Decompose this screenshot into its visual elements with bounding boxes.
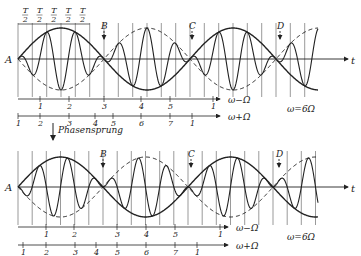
scale-tick-label: 2 [71, 230, 77, 239]
top-scale-plus-label: ω+Ω [228, 112, 251, 122]
node-marker-C: C [188, 149, 195, 159]
svg-text:2: 2 [65, 15, 71, 24]
top-scale-minus-label: ω−Ω [228, 95, 251, 105]
top-ratio-label: ω=6Ω [287, 104, 316, 114]
bottom-scale-ticks: 12345112345671 [21, 224, 223, 256]
node-marker-D: D [276, 21, 284, 31]
scale-tick-label: 4 [138, 102, 144, 111]
scale-tick-label: 2 [43, 248, 49, 256]
scale-tick-label: 3 [115, 230, 120, 239]
svg-text:T: T [66, 6, 72, 15]
bottom-panel: A t BCD ω−Ω ω+Ω 12345112345671 ω=6Ω [4, 149, 356, 256]
svg-text:T: T [51, 6, 57, 15]
half-period-dimension: T2T2T2T2T2 [18, 6, 90, 24]
bottom-ratio-label: ω=6Ω [287, 232, 316, 242]
svg-text:2: 2 [22, 15, 28, 24]
scale-tick-label: 6 [144, 248, 149, 256]
scale-tick-label: 3 [73, 248, 78, 256]
scale-tick-label: 4 [143, 230, 149, 239]
scale-tick-label: 7 [168, 119, 174, 128]
svg-text:2: 2 [79, 15, 85, 24]
top-panel: T2T2T2T2T2 A t BCD ω−Ω ω+Ω 1234511234567… [4, 6, 356, 128]
node-marker-B: B [100, 21, 108, 31]
scale-tick-label: 1 [211, 102, 216, 111]
beat-waveform-diagram: T2T2T2T2T2 A t BCD ω−Ω ω+Ω 1234511234567… [0, 0, 361, 256]
scale-tick-label: 1 [218, 230, 223, 239]
svg-text:T: T [23, 6, 29, 15]
bottom-origin-label: A [4, 182, 12, 193]
top-scale-ticks: 12345112345671 [16, 96, 216, 128]
scale-tick-label: 5 [173, 230, 178, 239]
bottom-scale-minus-label: ω−Ω [236, 223, 259, 233]
scale-tick-label: 1 [38, 102, 43, 111]
top-origin-label: A [4, 54, 12, 65]
node-marker-B: B [99, 149, 107, 159]
svg-text:T: T [80, 6, 86, 15]
svg-text:2: 2 [36, 15, 42, 24]
phase-jump-label: Phasensprung [57, 125, 123, 135]
scale-tick-label: 2 [66, 102, 72, 111]
scale-tick-label: 6 [139, 119, 144, 128]
bottom-grid-lines [18, 151, 316, 225]
scale-tick-label: 2 [37, 119, 43, 128]
scale-tick-label: 7 [173, 248, 179, 256]
bottom-time-label: t [351, 183, 356, 194]
svg-text:2: 2 [50, 15, 56, 24]
scale-tick-label: 5 [115, 248, 120, 256]
bottom-node-markers: BCD [99, 149, 283, 167]
scale-tick-label: 1 [16, 119, 21, 128]
node-marker-D: D [275, 149, 283, 159]
scale-tick-label: 1 [195, 248, 200, 256]
bottom-scale-plus-label: ω+Ω [236, 241, 259, 251]
scale-tick-label: 5 [168, 102, 173, 111]
scale-tick-label: 1 [44, 230, 49, 239]
scale-tick-label: 3 [102, 102, 107, 111]
node-marker-C: C [189, 21, 196, 31]
svg-text:T: T [37, 6, 43, 15]
top-node-markers: BCD [100, 21, 284, 39]
top-time-label: t [351, 55, 356, 66]
scale-tick-label: 1 [21, 248, 26, 256]
scale-tick-label: 1 [190, 119, 195, 128]
scale-tick-label: 4 [93, 248, 99, 256]
